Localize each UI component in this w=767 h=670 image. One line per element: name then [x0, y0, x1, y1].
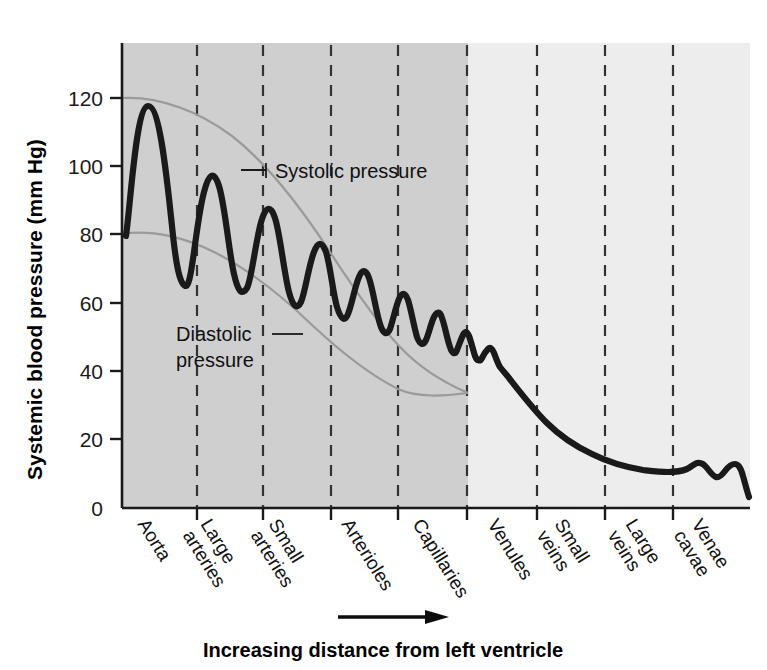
y-tick-label-100: 100 — [68, 155, 103, 178]
y-tick-label-20: 20 — [80, 428, 103, 451]
blood-pressure-figure: 120 100 80 60 40 20 0 Systemic blood pre… — [0, 0, 767, 670]
region-venous — [468, 43, 750, 508]
y-tick-label-80: 80 — [80, 223, 103, 246]
annotation-systolic-label: Systolic pressure — [275, 160, 427, 182]
y-tick-label-60: 60 — [80, 292, 103, 315]
chart-svg: 120 100 80 60 40 20 0 Systemic blood pre… — [0, 0, 767, 670]
annotation-diastolic-label-line1: Diastolic — [176, 323, 252, 345]
plot-regions — [122, 43, 750, 508]
x-axis-caption: Increasing distance from left ventricle — [203, 639, 563, 661]
y-axis-title: Systemic blood pressure (mm Hg) — [23, 139, 46, 480]
region-arterial — [122, 43, 468, 508]
y-tick-label-40: 40 — [80, 360, 103, 383]
y-tick-label-0: 0 — [91, 497, 103, 520]
annotation-diastolic-label-line2: pressure — [176, 349, 254, 371]
y-tick-label-120: 120 — [68, 87, 103, 110]
